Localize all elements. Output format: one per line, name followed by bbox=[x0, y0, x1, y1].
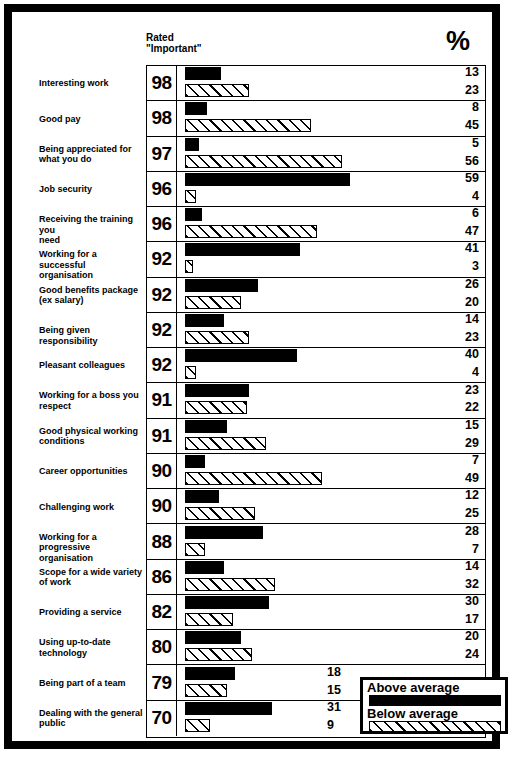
rated-important-value: 97 bbox=[147, 137, 177, 171]
value-above-average: 7 bbox=[472, 453, 479, 467]
category-label: Receiving the training youneed bbox=[39, 214, 143, 246]
rated-important-value: 96 bbox=[147, 172, 177, 206]
value-above-average: 23 bbox=[465, 383, 479, 397]
category-label-line: Good physical working bbox=[39, 426, 143, 437]
category-label: Good pay bbox=[39, 114, 143, 125]
bar-below-average bbox=[185, 719, 210, 732]
value-below-average: 3 bbox=[472, 259, 479, 273]
table-row: Being given responsibility921423 bbox=[147, 313, 485, 348]
value-above-average: 14 bbox=[465, 312, 479, 326]
bar-above-average bbox=[185, 349, 297, 362]
rated-important-value: 98 bbox=[147, 101, 177, 135]
value-below-average: 23 bbox=[465, 330, 479, 344]
category-label: Pleasant colleagues bbox=[39, 360, 143, 371]
bar-below-average bbox=[185, 296, 241, 309]
chart-legend: Above average Below average bbox=[360, 677, 508, 734]
bar-above-average bbox=[185, 173, 350, 186]
category-label-line: Good pay bbox=[39, 114, 143, 125]
bar-below-average bbox=[185, 543, 205, 556]
rated-line-1: Rated bbox=[146, 32, 202, 43]
category-label-line: Using up-to-date bbox=[39, 637, 143, 648]
category-label: Being appreciated forwhat you do bbox=[39, 144, 143, 165]
category-label-line: Working for a boss you bbox=[39, 390, 143, 401]
category-label-line: Working for a progressive bbox=[39, 532, 143, 553]
category-label: Career opportunities bbox=[39, 466, 143, 477]
category-label: Good benefits package(ex salary) bbox=[39, 285, 143, 306]
legend-below-swatch bbox=[369, 721, 501, 732]
value-below-average: 9 bbox=[327, 718, 334, 732]
rated-important-value: 92 bbox=[147, 313, 177, 347]
category-label: Working for a boss yourespect bbox=[39, 390, 143, 411]
category-label: Scope for a wide varietyof work bbox=[39, 567, 143, 588]
table-row: Job security96594 bbox=[147, 172, 485, 207]
value-above-average: 26 bbox=[465, 277, 479, 291]
value-above-average: 18 bbox=[327, 665, 341, 679]
category-label: Using up-to-datetechnology bbox=[39, 637, 143, 658]
bar-cell: 1225 bbox=[177, 489, 485, 523]
category-label-line: Being appreciated for bbox=[39, 144, 143, 155]
value-below-average: 32 bbox=[465, 577, 479, 591]
category-label: Working for a progressiveorganisation bbox=[39, 532, 143, 564]
table-row: Being appreciated forwhat you do97556 bbox=[147, 137, 485, 172]
bar-below-average bbox=[185, 366, 196, 379]
category-label-line: Pleasant colleagues bbox=[39, 360, 143, 371]
category-label-line: Good benefits package bbox=[39, 285, 143, 296]
value-above-average: 20 bbox=[465, 629, 479, 643]
bar-above-average bbox=[185, 631, 241, 644]
chart-header: Rated "Important" % bbox=[12, 20, 492, 60]
chart-table: Interesting work981323Good pay98845Being… bbox=[146, 65, 486, 738]
rated-important-value: 91 bbox=[147, 383, 177, 417]
bar-below-average bbox=[185, 190, 196, 203]
category-label-line: conditions bbox=[39, 436, 143, 447]
bar-above-average bbox=[185, 208, 202, 221]
bar-above-average bbox=[185, 596, 269, 609]
rated-important-value: 92 bbox=[147, 242, 177, 276]
category-label-line: Being part of a team bbox=[39, 678, 143, 689]
value-above-average: 8 bbox=[472, 100, 479, 114]
bar-above-average bbox=[185, 455, 205, 468]
rated-important-value: 88 bbox=[147, 524, 177, 558]
table-row: Working for a boss yourespect912322 bbox=[147, 383, 485, 418]
value-below-average: 23 bbox=[465, 83, 479, 97]
value-above-average: 40 bbox=[465, 347, 479, 361]
value-above-average: 30 bbox=[465, 594, 479, 608]
bar-cell: 845 bbox=[177, 101, 485, 135]
bar-below-average bbox=[185, 401, 247, 414]
rated-line-2: "Important" bbox=[146, 43, 202, 54]
table-row: Good benefits package(ex salary)922620 bbox=[147, 278, 485, 313]
bar-above-average bbox=[185, 490, 219, 503]
value-above-average: 15 bbox=[465, 418, 479, 432]
rated-important-value: 92 bbox=[147, 278, 177, 312]
rated-important-value: 70 bbox=[147, 701, 177, 736]
bar-above-average bbox=[185, 526, 263, 539]
bar-above-average bbox=[185, 702, 272, 715]
bar-below-average bbox=[185, 155, 342, 168]
value-below-average: 20 bbox=[465, 295, 479, 309]
category-label-line: what you do bbox=[39, 154, 143, 165]
value-above-average: 14 bbox=[465, 559, 479, 573]
legend-above-swatch bbox=[369, 695, 501, 706]
bar-above-average bbox=[185, 314, 224, 327]
rated-important-value: 90 bbox=[147, 454, 177, 488]
bar-above-average bbox=[185, 67, 221, 80]
category-label-line: organisation bbox=[39, 270, 143, 281]
bar-below-average bbox=[185, 260, 193, 273]
table-row: Career opportunities90749 bbox=[147, 454, 485, 489]
category-label-line: Receiving the training you bbox=[39, 214, 143, 235]
bar-above-average bbox=[185, 420, 227, 433]
bar-cell: 594 bbox=[177, 172, 485, 206]
table-row: Good pay98845 bbox=[147, 101, 485, 136]
bar-cell: 647 bbox=[177, 207, 485, 241]
category-label-line: (ex salary) bbox=[39, 295, 143, 306]
value-below-average: 29 bbox=[465, 436, 479, 450]
bar-below-average bbox=[185, 437, 266, 450]
table-row: Challenging work901225 bbox=[147, 489, 485, 524]
bar-below-average bbox=[185, 648, 252, 661]
category-label-line: Interesting work bbox=[39, 78, 143, 89]
bar-below-average bbox=[185, 684, 227, 697]
category-label: Dealing with the generalpublic bbox=[39, 708, 143, 729]
category-label: Being part of a team bbox=[39, 678, 143, 689]
category-label: Job security bbox=[39, 184, 143, 195]
category-label-line: Providing a service bbox=[39, 607, 143, 618]
poster-inner: Rated "Important" % Interesting work9813… bbox=[12, 12, 492, 741]
